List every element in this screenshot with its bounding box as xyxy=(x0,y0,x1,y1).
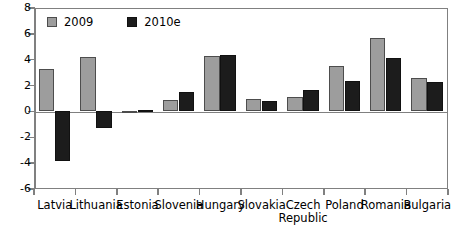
x-axis-category-label: Estonia xyxy=(116,199,158,212)
bar-czech-republic-2010e xyxy=(303,90,319,111)
y-axis-tick-label: 2 xyxy=(24,80,31,91)
x-axis-tick xyxy=(75,189,77,195)
y-axis-tick-label: -6 xyxy=(20,183,31,194)
x-axis-category-label: Bulgaria xyxy=(403,199,451,212)
x-axis-tick xyxy=(116,189,118,195)
bar-bulgaria-2009 xyxy=(411,78,427,111)
x-axis-tick xyxy=(323,189,325,195)
x-axis-category-label-line: Lithuania xyxy=(69,198,122,212)
y-axis-tick-label: 8 xyxy=(24,2,31,13)
x-axis-tick xyxy=(240,189,242,195)
bar-bulgaria-2010e xyxy=(427,82,443,112)
bar-hungary-2010e xyxy=(220,55,236,112)
bar-estonia-2010e xyxy=(138,110,154,112)
bar-lithuania-2010e xyxy=(96,111,112,128)
x-axis-tick xyxy=(199,189,201,195)
chart-legend: 2009 2010e xyxy=(47,16,181,28)
x-axis-category-label: Latvia xyxy=(37,199,72,212)
bar-latvia-2009 xyxy=(39,69,55,112)
x-axis-category-label-line: Republic xyxy=(279,212,328,225)
x-axis-category-label: Lithuania xyxy=(69,199,122,212)
x-axis-category-label-line: Estonia xyxy=(116,198,158,212)
bar-hungary-2009 xyxy=(204,56,220,112)
bar-poland-2010e xyxy=(345,81,361,111)
bar-slovenia-2010e xyxy=(179,92,195,111)
legend-item-2010e: 2010e xyxy=(127,16,180,28)
x-axis-tick xyxy=(406,189,408,195)
y-axis-tick-label: 4 xyxy=(24,54,31,65)
x-axis-category-label-line: Bulgaria xyxy=(403,198,451,212)
x-axis-category-label-line: Latvia xyxy=(37,198,72,212)
bar-slovakia-2009 xyxy=(246,99,262,112)
x-axis-category-label: CzechRepublic xyxy=(279,199,328,225)
bar-lithuania-2009 xyxy=(80,57,96,111)
legend-label-2009: 2009 xyxy=(64,16,93,28)
legend-label-2010e: 2010e xyxy=(144,16,180,28)
y-axis-tick-label: -4 xyxy=(20,157,31,168)
x-axis-category-label: Poland xyxy=(325,199,363,212)
bar-slovenia-2009 xyxy=(163,100,179,112)
x-axis-tick xyxy=(157,189,159,195)
bar-romania-2009 xyxy=(370,38,386,112)
x-axis-tick xyxy=(364,189,366,195)
x-axis-tick xyxy=(33,189,35,195)
bar-estonia-2009 xyxy=(122,111,138,113)
y-axis-tick-label: 0 xyxy=(24,105,31,116)
y-axis-tick-label: -2 xyxy=(20,131,31,142)
bar-poland-2009 xyxy=(329,66,345,111)
bar-slovakia-2010e xyxy=(262,101,278,111)
bar-czech-republic-2009 xyxy=(287,97,303,111)
x-axis-category-label-line: Poland xyxy=(325,198,363,212)
bar-latvia-2010e xyxy=(55,111,71,160)
x-axis-category-label-line: Czech xyxy=(286,198,321,212)
legend-swatch-2009-icon xyxy=(47,17,57,27)
x-axis-tick xyxy=(447,189,449,195)
legend-item-2009: 2009 xyxy=(47,16,93,28)
x-axis-tick xyxy=(282,189,284,195)
y-axis-tick-label: 6 xyxy=(24,28,31,39)
bar-chart: 86420-2-4-6 LatviaLithuaniaEstoniaSloven… xyxy=(0,0,465,245)
legend-swatch-2010e-icon xyxy=(127,17,137,27)
bar-romania-2010e xyxy=(386,58,402,111)
